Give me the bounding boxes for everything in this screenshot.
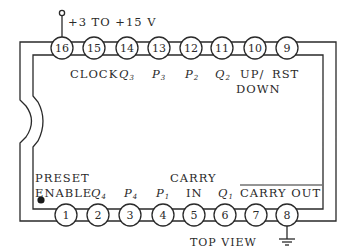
- pin-13: 13: [148, 37, 170, 59]
- label-carry: CARRY: [170, 171, 217, 185]
- svg-text:14: 14: [120, 42, 134, 55]
- bottom-pin-row: 1 2 3 4 5 6 7 8: [55, 204, 298, 226]
- svg-text:12: 12: [184, 42, 198, 55]
- svg-text:2: 2: [95, 209, 102, 222]
- pin-9: 9: [276, 37, 298, 59]
- svg-text:10: 10: [248, 42, 262, 55]
- label-preset: PRESET: [35, 171, 90, 185]
- svg-text:5: 5: [191, 209, 198, 222]
- pin-8: 8: [276, 204, 298, 226]
- pin-3: 3: [119, 204, 141, 226]
- label-in: IN: [186, 186, 203, 200]
- pin-6: 6: [214, 204, 236, 226]
- label-rst: RST: [272, 67, 299, 81]
- label-p2: P2: [184, 67, 199, 82]
- svg-text:3: 3: [127, 209, 134, 222]
- label-up: UP/: [240, 67, 264, 81]
- svg-text:9: 9: [284, 42, 291, 55]
- label-p1: P1: [155, 186, 170, 201]
- svg-text:1: 1: [63, 209, 70, 222]
- view-label: TOP VIEW: [190, 236, 257, 248]
- svg-text:8: 8: [284, 209, 291, 222]
- ic-pinout-diagram: 16 15 14 13 12 11 10 9 1 2 3 4 5 6 7 8 +…: [0, 0, 350, 248]
- pin-16: 16: [51, 37, 73, 59]
- pin-2: 2: [87, 204, 109, 226]
- label-enable: ENABLE: [35, 186, 92, 200]
- label-down: DOWN: [236, 82, 281, 96]
- pin-5: 5: [183, 204, 205, 226]
- svg-text:16: 16: [55, 42, 69, 55]
- top-pin-row: 16 15 14 13 12 11 10 9: [51, 37, 298, 59]
- svg-text:11: 11: [215, 42, 229, 55]
- label-q4: Q4: [91, 186, 107, 201]
- svg-text:7: 7: [253, 209, 260, 222]
- label-q2: Q2: [215, 67, 231, 82]
- svg-text:13: 13: [152, 42, 166, 55]
- label-p3: P3: [151, 67, 166, 82]
- pin-11: 11: [211, 37, 233, 59]
- label-p4: P4: [123, 186, 138, 201]
- label-q3: Q3: [119, 67, 135, 82]
- pin-15: 15: [83, 37, 105, 59]
- svg-text:6: 6: [222, 209, 229, 222]
- supply-label: +3 TO +15 V: [68, 15, 157, 29]
- svg-text:15: 15: [87, 42, 101, 55]
- pin-7: 7: [245, 204, 267, 226]
- label-q1: Q1: [218, 186, 234, 201]
- label-carry-out: CARRY OUT: [240, 186, 321, 200]
- pin-1: 1: [55, 204, 77, 226]
- supply-terminal-icon: [59, 10, 64, 15]
- pin-14: 14: [116, 37, 138, 59]
- svg-text:4: 4: [160, 209, 167, 222]
- pin-10: 10: [244, 37, 266, 59]
- ground-icon: [279, 239, 295, 245]
- pin-12: 12: [180, 37, 202, 59]
- label-clock: CLOCK: [70, 67, 118, 81]
- pin-4: 4: [152, 204, 174, 226]
